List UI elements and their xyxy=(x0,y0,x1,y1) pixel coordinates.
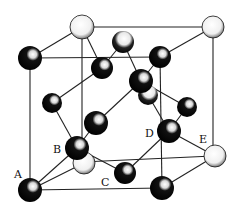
atom-center xyxy=(129,69,153,93)
atom-front-top-right xyxy=(149,46,171,68)
atom-B xyxy=(65,136,89,160)
atom-back-top-left xyxy=(70,15,94,39)
atom-A xyxy=(18,178,42,202)
atom-right-face xyxy=(177,97,197,117)
atom-E xyxy=(204,145,226,167)
atom-D xyxy=(157,119,181,143)
label-A: A xyxy=(13,168,23,181)
atom-interior-lower xyxy=(84,111,108,135)
atom-top-face-center xyxy=(112,31,134,53)
label-E: E xyxy=(199,133,207,146)
label-D: D xyxy=(145,127,154,140)
atom-left-face-upper xyxy=(42,93,62,113)
label-B: B xyxy=(53,143,61,156)
atoms xyxy=(18,15,226,202)
atom-C xyxy=(114,162,136,184)
atom-front-bottom-right xyxy=(150,176,174,200)
crystal-lattice-diagram: A B C D E xyxy=(0,0,239,213)
atom-front-top-left xyxy=(18,46,42,70)
atom-back-top-right xyxy=(202,16,224,38)
label-C: C xyxy=(101,176,109,189)
lattice-svg: A B C D E xyxy=(0,0,239,213)
atom-upper-interior xyxy=(91,57,113,79)
